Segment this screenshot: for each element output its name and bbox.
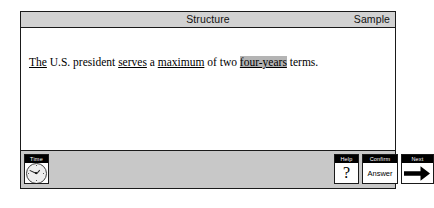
question-mark-icon: ? xyxy=(343,165,350,181)
header-bar: Structure Sample xyxy=(21,12,395,28)
confirm-button-label: Confirm xyxy=(363,155,397,163)
time-widget: Time xyxy=(24,154,49,184)
next-button-label: Next xyxy=(402,155,433,163)
arrow-right-icon xyxy=(402,163,433,183)
help-button-body[interactable]: ? xyxy=(335,163,358,183)
sentence-text: a xyxy=(147,56,158,68)
question-sentence: The U.S. president serves a maximum of t… xyxy=(29,55,385,70)
sentence-text: terms. xyxy=(287,56,318,68)
page-title: Structure xyxy=(21,12,395,27)
time-widget-body xyxy=(25,163,48,184)
help-button[interactable]: Help ? xyxy=(334,154,359,184)
sentence-text: U.S. president xyxy=(47,56,118,68)
answer-choice[interactable]: maximum xyxy=(158,56,205,68)
answer-choice[interactable]: The xyxy=(29,56,47,68)
mode-badge: Sample xyxy=(354,12,390,27)
clock-center-pin xyxy=(35,172,37,174)
bottom-toolbar: Time Help ? xyxy=(21,150,395,188)
time-widget-label: Time xyxy=(25,155,48,163)
confirm-button-text: Answer xyxy=(367,169,392,178)
content-area: The U.S. president serves a maximum of t… xyxy=(21,28,395,150)
answer-choice[interactable]: serves xyxy=(118,56,147,68)
help-button-label: Help xyxy=(335,155,358,163)
next-button[interactable]: Next xyxy=(401,154,434,184)
next-button-body[interactable] xyxy=(402,163,433,183)
test-window: Structure Sample The U.S. president serv… xyxy=(20,11,396,189)
sentence-text: of two xyxy=(204,56,239,68)
analog-clock-icon xyxy=(26,163,47,184)
answer-choice-selected[interactable]: four-years xyxy=(240,56,287,68)
confirm-button-body[interactable]: Answer xyxy=(363,163,397,183)
confirm-answer-button[interactable]: Confirm Answer xyxy=(362,154,398,184)
